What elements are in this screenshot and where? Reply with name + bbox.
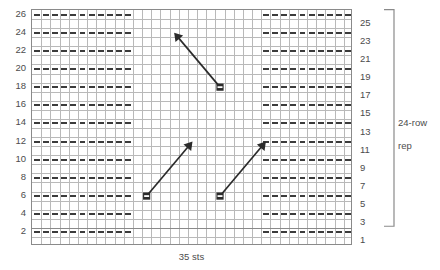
cable-arrow-origin-dash-icon	[218, 86, 223, 88]
repeat-bracket-icon	[382, 9, 398, 227]
row-number-left: 2	[2, 226, 26, 236]
row-number-right: 3	[360, 217, 384, 227]
row-number-left: 20	[2, 63, 26, 73]
row-number-right: 7	[360, 181, 384, 191]
row-number-right: 11	[360, 145, 384, 155]
row-number-left: 16	[2, 99, 26, 109]
row-number-right: 9	[360, 163, 384, 173]
row-number-right: 1	[360, 235, 384, 245]
cable-arrow-origin-dash-icon	[144, 195, 149, 197]
row-number-right: 5	[360, 199, 384, 209]
cable-2	[143, 142, 192, 200]
row-number-right: 21	[360, 54, 384, 64]
row-number-right: 17	[360, 90, 384, 100]
row-number-left: 12	[2, 136, 26, 146]
repeat-label: 24-row rep	[398, 106, 427, 152]
cable-arrow-shaft	[147, 147, 188, 196]
row-number-left: 4	[2, 208, 26, 218]
row-number-left: 18	[2, 81, 26, 91]
repeat-label-line2: rep	[398, 140, 412, 151]
cable-arrows	[32, 10, 353, 246]
row-number-right: 13	[360, 127, 384, 137]
row-number-left: 24	[2, 27, 26, 37]
row-number-right: 25	[360, 18, 384, 28]
cable-1	[174, 33, 223, 91]
row-number-left: 22	[2, 45, 26, 55]
cable-arrow-shaft	[179, 38, 220, 87]
stitch-count-label: 35 sts	[31, 251, 352, 262]
row-number-left: 14	[2, 117, 26, 127]
cable-arrow-shaft	[220, 147, 261, 196]
row-number-right: 23	[360, 36, 384, 46]
row-number-left: 6	[2, 190, 26, 200]
repeat-label-line1: 24-row	[398, 117, 427, 128]
row-number-left: 10	[2, 154, 26, 164]
row-number-left: 26	[2, 9, 26, 19]
chart-grid	[31, 9, 352, 245]
row-number-left: 8	[2, 172, 26, 182]
cable-3	[216, 142, 265, 200]
cable-arrow-origin-dash-icon	[218, 195, 223, 197]
knitting-chart: 2624222018161412108642 25232119171513119…	[0, 0, 440, 270]
row-number-right: 19	[360, 72, 384, 82]
row-number-right: 15	[360, 108, 384, 118]
